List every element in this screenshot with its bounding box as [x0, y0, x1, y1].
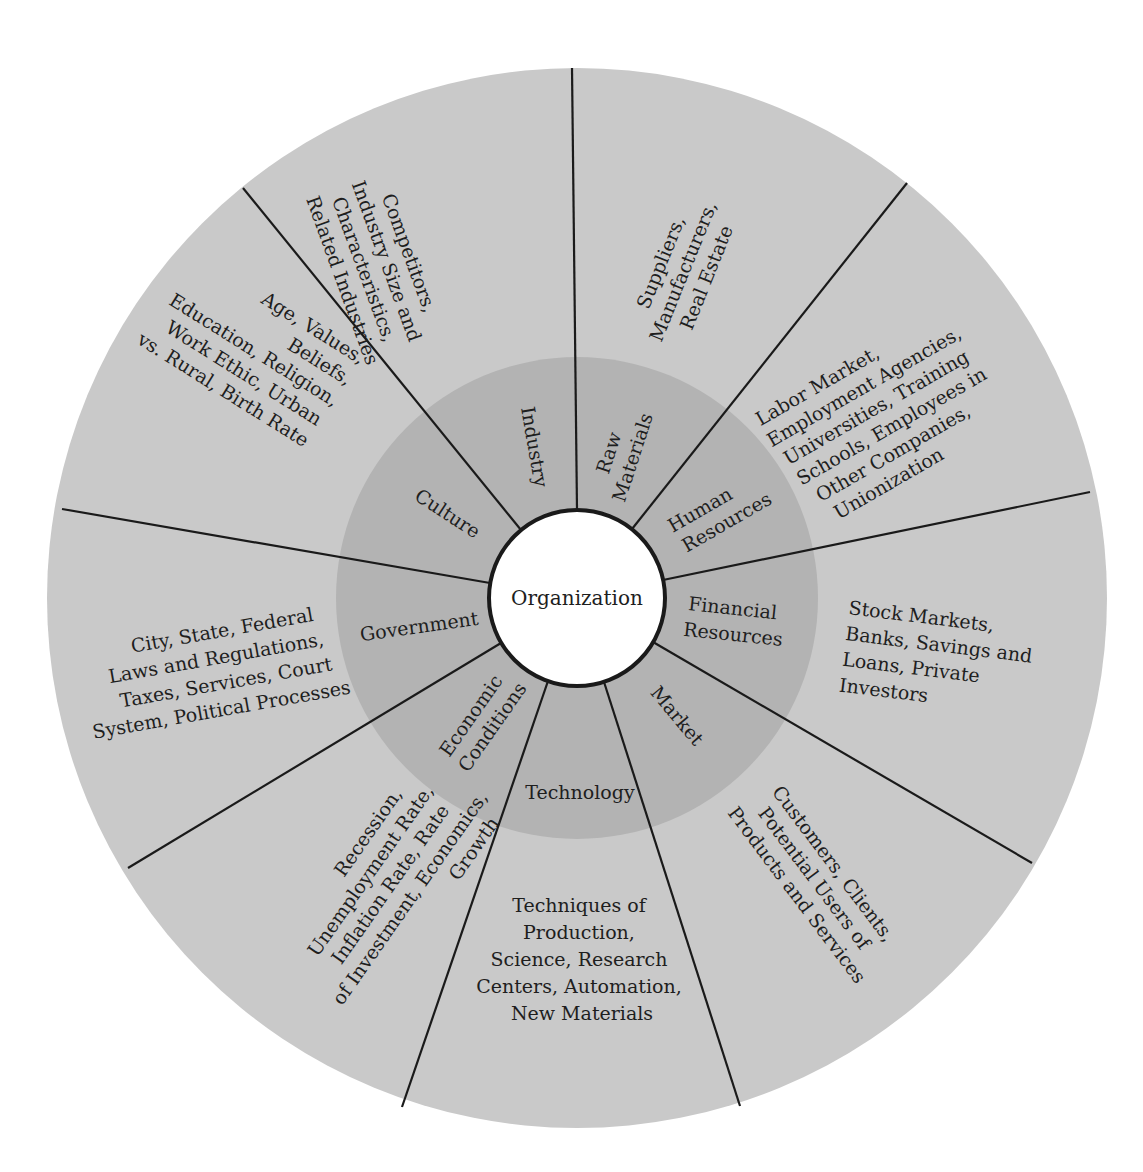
inner-label-line: Technology: [525, 781, 635, 803]
outer-label-line: New Materials: [511, 1002, 653, 1024]
outer-label-line: Science, Research: [490, 948, 667, 970]
organization-environment-diagram: Organization Industry Raw Materials Huma…: [0, 0, 1143, 1172]
inner-label-technology: Technology: [525, 781, 635, 803]
outer-label-line: Production,: [523, 921, 635, 943]
center-label: Organization: [511, 586, 643, 610]
outer-label-line: Techniques of: [512, 894, 648, 916]
outer-label-line: Centers, Automation,: [476, 975, 682, 997]
